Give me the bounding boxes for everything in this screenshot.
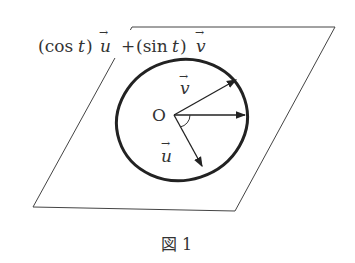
- formula-u: u: [100, 36, 111, 56]
- vector-u-label: u: [161, 146, 172, 166]
- formula-v: v: [196, 36, 206, 56]
- formula-sin: (sin: [136, 36, 168, 56]
- figure-diagram: O → v → u (cos t ) → u + (sin t ) → v 図 …: [0, 0, 355, 263]
- origin-label: O: [152, 105, 166, 125]
- formula-t1: t: [78, 36, 85, 56]
- ellipse-curve: [101, 43, 264, 198]
- formula-plus: +: [121, 36, 135, 56]
- figure-caption: 図 1: [161, 235, 192, 254]
- formula-close2: ): [180, 36, 187, 56]
- angle-t-arc: [180, 115, 190, 127]
- formula-cos: (cos: [38, 36, 73, 56]
- formula-t2: t: [172, 36, 179, 56]
- vector-v-label: v: [180, 78, 190, 98]
- formula-close1: ): [86, 36, 93, 56]
